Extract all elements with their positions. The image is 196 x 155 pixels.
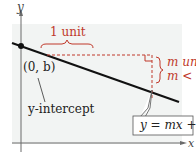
x-axis-arrow-icon bbox=[180, 141, 187, 145]
rise-label-line2: m < 0 bbox=[167, 70, 196, 82]
y-intercept-caption: y-intercept bbox=[28, 103, 94, 115]
y-axis-label: y bbox=[17, 1, 24, 13]
intercept-point-label: (0, b) bbox=[23, 61, 55, 73]
rise-label-line1: m units, bbox=[167, 56, 196, 68]
run-label: 1 unit bbox=[50, 26, 86, 38]
x-axis-label: x bbox=[188, 138, 194, 149]
equation-label: y = mx + b bbox=[140, 119, 196, 131]
y-intercept-point bbox=[18, 43, 24, 49]
